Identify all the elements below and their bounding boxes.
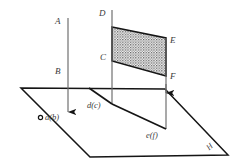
plane-h-shape: [21, 88, 228, 157]
label-line-b: B: [55, 67, 61, 76]
label-vertex-c: C: [100, 53, 106, 62]
label-vertex-d: D: [99, 9, 106, 18]
point-ab-marker: [38, 115, 42, 119]
label-projection-dc: d(c): [87, 101, 101, 110]
label-projection-ef: e(f): [146, 131, 158, 140]
label-projection-ab: a(b): [45, 113, 59, 122]
diagram-canvas: A B D C E F a(b) d(c) e(f) H: [0, 0, 239, 164]
label-vertex-e: E: [170, 36, 176, 45]
label-line-a: A: [55, 17, 61, 26]
label-vertex-f: F: [170, 72, 176, 81]
geometry-drawing: [0, 0, 239, 164]
